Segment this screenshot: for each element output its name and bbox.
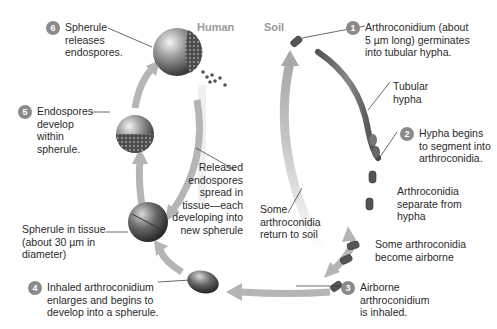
step-3-text: Airborne arthroconidium is inhaled. — [360, 281, 429, 319]
hypha-segment — [372, 146, 380, 158]
step-badge-3: 3 — [341, 281, 355, 295]
step-4-text: Inhaled arthroconidium enlarges and begi… — [47, 281, 159, 319]
return-arrowhead — [281, 50, 299, 66]
step-1-text: Arthroconidium (about 5 µm long) germina… — [365, 21, 470, 59]
hypha-segment — [369, 134, 377, 146]
tubular-hypha — [318, 52, 378, 158]
step-badge-4: 4 — [28, 281, 42, 295]
step-badge-5: 5 — [18, 105, 32, 119]
released-endospores-text: Released endospores spread in tissue—eac… — [165, 161, 243, 236]
step-5-text: Endospores develop within spherule. — [37, 105, 93, 155]
become-airborne-text: Some arthroconidia become airborne — [375, 238, 466, 263]
step-badge-2: 2 — [400, 127, 414, 141]
return-to-soil-text: Some arthroconidia return to soil — [260, 203, 321, 241]
step-badge-1: 1 — [346, 21, 360, 35]
region-label-soil: Soil — [264, 21, 284, 33]
enlarging-arthroconidium — [185, 267, 222, 297]
spherule-in-tissue-text: Spherule in tissue (about 30 µm in diame… — [22, 223, 105, 261]
arthroconidia-separate-text: Arthroconidia separate from hypha — [397, 185, 462, 223]
region-label-human: Human — [197, 21, 234, 33]
spherule-5 — [116, 115, 154, 153]
spherule-in-tissue — [128, 202, 168, 242]
step-6-text: Spherule releases endospores. — [65, 21, 123, 59]
step-badge-6: 6 — [46, 21, 60, 35]
step-2-text: Hypha begins to segment into arthroconid… — [419, 127, 491, 165]
spherule-6 — [153, 28, 227, 87]
tubular-hypha-text: Tubular hypha — [393, 80, 428, 105]
arthroconidia-chain — [289, 35, 376, 293]
life-cycle-diagram: Human Soil 6 Spherule releases endospore… — [0, 0, 497, 329]
